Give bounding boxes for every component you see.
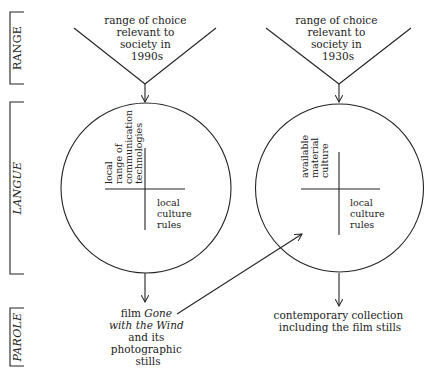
left-range-text: range of choice relevant to society in 1… — [104, 14, 190, 62]
right-range-text: range of choice relevant to society in 1… — [295, 14, 381, 62]
right-parole: contemporary collection including the fi… — [274, 273, 407, 333]
cross-link-arrow — [177, 234, 302, 314]
right-parole-text: contemporary collection including the fi… — [274, 309, 407, 333]
left-langue-circle: local range of communication technologie… — [0, 0, 231, 273]
svg-text:culture: culture — [319, 143, 330, 178]
right-langue-circle: available material culture local culture… — [256, 104, 424, 272]
left-quad-top-left-label: local range of communication technologie… — [103, 110, 144, 184]
left-range-funnel: range of choice relevant to society in 1… — [74, 14, 216, 102]
right-quad-bottom-right-label: local culture rules — [350, 197, 388, 230]
label-parole: PAROLE — [11, 313, 24, 363]
bracket-range: RANGE — [10, 12, 24, 84]
right-quad-top-left-label: available material culture — [299, 134, 330, 178]
left-quad-bottom-right-label: local culture rules — [157, 197, 195, 230]
range-langue-parole-diagram: RANGE LANGUE PAROLE range of choice rele… — [0, 0, 428, 374]
left-parole-text: film Gone with the Wind and its photogra… — [109, 307, 187, 367]
left-parole: film Gone with the Wind and its photogra… — [109, 273, 187, 367]
bracket-langue: LANGUE — [10, 102, 24, 274]
label-range: RANGE — [11, 26, 24, 70]
right-range-funnel: range of choice relevant to society in 1… — [266, 14, 411, 102]
svg-text:technologies: technologies — [133, 123, 144, 184]
bracket-parole: PAROLE — [10, 308, 24, 366]
label-langue: LANGUE — [11, 162, 24, 216]
